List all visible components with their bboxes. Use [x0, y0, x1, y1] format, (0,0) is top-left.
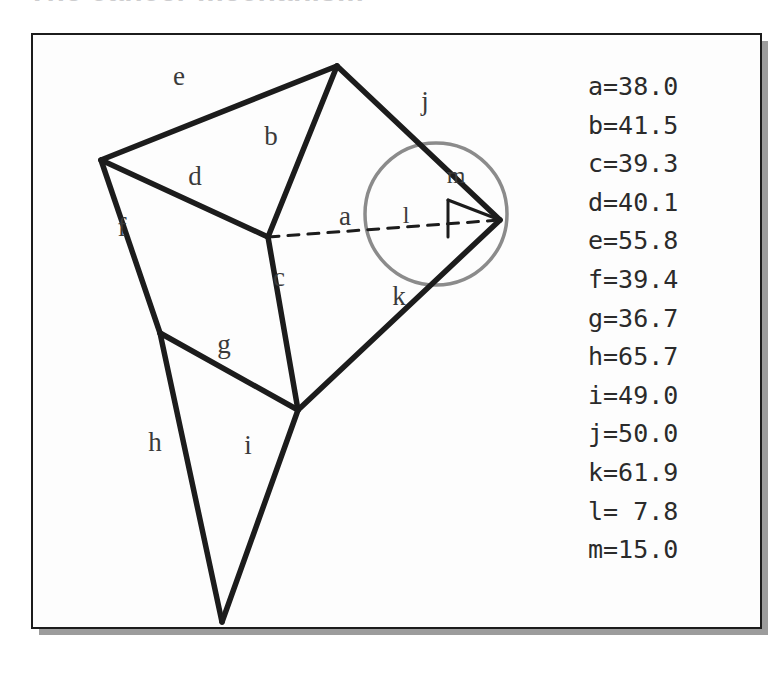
legend-row: m=15.0	[588, 531, 678, 570]
legend-row: e=55.8	[588, 222, 678, 261]
segment-label-d: d	[188, 161, 202, 191]
legend-row: j=50.0	[588, 415, 678, 454]
segment-label-j: j	[420, 86, 429, 116]
segment-label-l: l	[403, 202, 410, 228]
legend-row: f=39.4	[588, 261, 678, 300]
segment-label-h: h	[148, 427, 162, 457]
segment-label-a: a	[339, 201, 351, 231]
segment-label-c: c	[273, 262, 285, 292]
segment-e	[101, 66, 337, 160]
legend-row: l= 7.8	[588, 493, 678, 532]
segment-label-b: b	[264, 121, 278, 151]
legend-row: d=40.1	[588, 184, 678, 223]
segment-a	[268, 220, 500, 237]
segment-h	[160, 333, 222, 622]
legend-row: a=38.0	[588, 68, 678, 107]
segment-k	[298, 220, 500, 410]
legend-row: i=49.0	[588, 377, 678, 416]
segment-label-i: i	[244, 430, 252, 460]
segment-i	[222, 410, 298, 622]
legend-row: b=41.5	[588, 107, 678, 146]
legend-row: h=65.7	[588, 338, 678, 377]
legend-row: g=36.7	[588, 300, 678, 339]
segment-label-k: k	[392, 281, 406, 311]
segment-j	[337, 66, 500, 220]
segment-label-e: e	[173, 61, 185, 91]
legend-row: k=61.9	[588, 454, 678, 493]
side-length-legend: a=38.0b=41.5c=39.3d=40.1e=55.8f=39.4g=36…	[588, 68, 678, 570]
segment-label-m: m	[447, 162, 466, 188]
segment-label-g: g	[217, 329, 231, 359]
page-title: The cancer mechanism	[28, 0, 364, 8]
legend-row: c=39.3	[588, 145, 678, 184]
segment-label-f: f	[118, 212, 127, 242]
